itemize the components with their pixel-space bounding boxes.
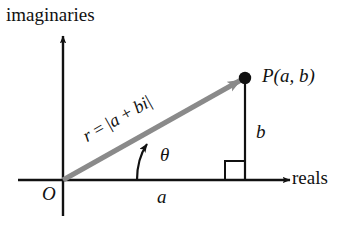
- right-angle-marker: [225, 161, 245, 180]
- angle-arc: [137, 144, 147, 180]
- point-p-label: P(a, b): [262, 66, 315, 85]
- imaginary-axis-label: imaginaries: [6, 5, 95, 24]
- leg-b-label: b: [256, 122, 266, 141]
- complex-plane-figure: imaginaries reals O a b θ P(a, b) r = |a…: [0, 0, 351, 228]
- leg-a-label: a: [157, 187, 167, 206]
- angle-theta-label: θ: [160, 145, 169, 164]
- origin-label: O: [42, 184, 56, 203]
- point-marker: [239, 72, 251, 84]
- real-axis-label: reals: [292, 168, 328, 187]
